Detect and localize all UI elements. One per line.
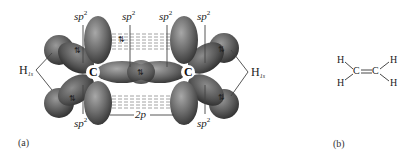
svg-text:⇅: ⇅ bbox=[74, 46, 81, 55]
p-lobe-right-bottom bbox=[170, 81, 198, 125]
ethylene-h-bottom-left: H bbox=[337, 78, 344, 88]
svg-text:⇅: ⇅ bbox=[218, 45, 225, 54]
ethylene-structure-bonds bbox=[345, 62, 389, 81]
svg-text:⇅: ⇅ bbox=[218, 93, 225, 102]
orbital-diagram: ⇅ ⇅ ⇅ ⇅ ⇅ ⇅ bbox=[0, 0, 418, 159]
ethylene-c-right: C bbox=[372, 66, 379, 76]
label-sp2-bottom-1: sp2 bbox=[74, 117, 87, 129]
p-lobe-right-top bbox=[170, 16, 198, 64]
svg-text:⇅: ⇅ bbox=[137, 68, 144, 77]
label-sp2-top-2: sp2 bbox=[122, 10, 135, 22]
pi-bond-bottom-dashes bbox=[106, 96, 178, 108]
carbon-atom-left: C bbox=[89, 66, 98, 78]
carbon-atom-right: C bbox=[184, 66, 193, 78]
svg-text:⇅: ⇅ bbox=[69, 94, 76, 103]
ethylene-h-bottom-right: H bbox=[390, 78, 397, 88]
label-sp2-top-4: sp2 bbox=[197, 10, 210, 22]
svg-text:⇅: ⇅ bbox=[118, 35, 125, 44]
p-lobe-left-bottom bbox=[84, 81, 112, 125]
label-2p: 2p bbox=[135, 109, 146, 120]
label-sp2-top-1: sp2 bbox=[74, 10, 87, 22]
p-lobe-left-top bbox=[84, 16, 112, 64]
label-sp2-bottom-2: sp2 bbox=[197, 117, 210, 129]
ethylene-h-top-left: H bbox=[337, 55, 344, 65]
ethylene-c-left: C bbox=[353, 66, 360, 76]
ethylene-bonding-figure: ⇅ ⇅ ⇅ ⇅ ⇅ ⇅ sp2 sp2 sp2 sp2 sp2 sp2 2p C… bbox=[0, 0, 418, 159]
label-h1s-right: H1s bbox=[251, 66, 265, 79]
label-h1s-left: H1s bbox=[19, 64, 33, 77]
caption-panel-b: (b) bbox=[333, 139, 345, 149]
label-sp2-top-3: sp2 bbox=[159, 10, 172, 22]
caption-panel-a: (a) bbox=[18, 138, 29, 148]
ethylene-h-top-right: H bbox=[390, 55, 397, 65]
